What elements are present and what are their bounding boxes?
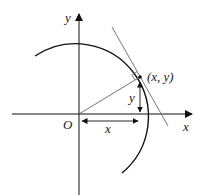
- circle-arc: [35, 44, 148, 173]
- origin-label: O: [63, 117, 73, 132]
- horizontal-distance-label: x: [104, 121, 111, 136]
- diagram-canvas: y x O (x, y) y x: [0, 0, 203, 195]
- tangency-point: [138, 75, 142, 79]
- circle-tangent-diagram: y x O (x, y) y x: [0, 0, 203, 195]
- x-axis-label: x: [182, 119, 189, 134]
- vertical-distance-label: y: [127, 90, 135, 105]
- y-axis-label: y: [63, 10, 71, 25]
- point-label: (x, y): [147, 69, 174, 84]
